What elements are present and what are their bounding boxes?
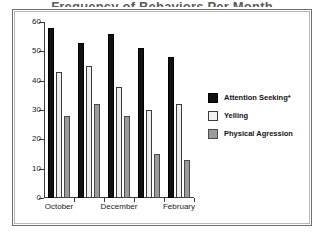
bar <box>108 34 115 198</box>
legend-label: Attention Seeking* <box>224 93 291 103</box>
legend-item: Attention Seeking* <box>208 92 308 103</box>
bar <box>48 28 55 198</box>
chart-figure: Frequency of Behaviors Per Month 0102030… <box>0 0 324 245</box>
y-tick-label: 40 <box>32 75 41 86</box>
bar <box>78 43 85 198</box>
legend-item: Physical Agression <box>208 128 308 139</box>
y-tick-label: 20 <box>32 133 41 144</box>
bar <box>116 87 123 198</box>
x-axis-label: October <box>31 202 88 212</box>
bar <box>176 104 183 198</box>
legend-swatch <box>208 129 218 139</box>
bar <box>184 160 191 198</box>
legend-item: Yelling <box>208 110 308 121</box>
legend-label: Physical Agression <box>224 129 293 139</box>
bar <box>138 48 145 198</box>
bar <box>168 57 175 198</box>
bar <box>124 116 131 198</box>
y-tick-label: 10 <box>32 163 41 174</box>
y-tick-label: 60 <box>32 16 41 27</box>
bar <box>146 110 153 198</box>
bar <box>56 72 63 198</box>
chart-title-remnant: Frequency of Behaviors Per Month <box>0 0 324 7</box>
y-axis <box>44 22 45 198</box>
legend-swatch <box>208 93 218 103</box>
chart-legend: Attention Seeking*YellingPhysical Agress… <box>208 92 308 146</box>
legend-swatch <box>208 111 218 121</box>
x-axis-label: December <box>91 202 148 212</box>
bar <box>64 116 71 198</box>
y-tick-label: 30 <box>32 104 41 115</box>
bar <box>94 104 101 198</box>
x-axis-label: February <box>151 202 208 212</box>
bar <box>154 154 161 198</box>
plot-area: 0102030405060 OctoberDecemberFebruary <box>44 22 194 198</box>
y-tick-label: 50 <box>32 45 41 56</box>
bar <box>86 66 93 198</box>
legend-label: Yelling <box>224 111 248 121</box>
